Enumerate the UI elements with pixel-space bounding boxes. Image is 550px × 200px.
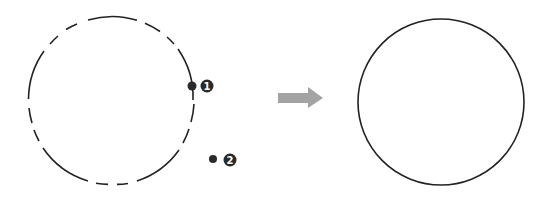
badge-1-label: 1 [204, 81, 211, 92]
solid-circle [358, 19, 524, 185]
badge-2-label: 2 [227, 155, 234, 166]
right-arrow-icon [278, 87, 323, 108]
diagram-canvas: 1 2 [0, 0, 550, 200]
marker-2: 2 [209, 154, 237, 167]
dashed-circle [29, 17, 195, 185]
point-1-dot [188, 82, 197, 91]
point-2-dot [209, 155, 217, 163]
